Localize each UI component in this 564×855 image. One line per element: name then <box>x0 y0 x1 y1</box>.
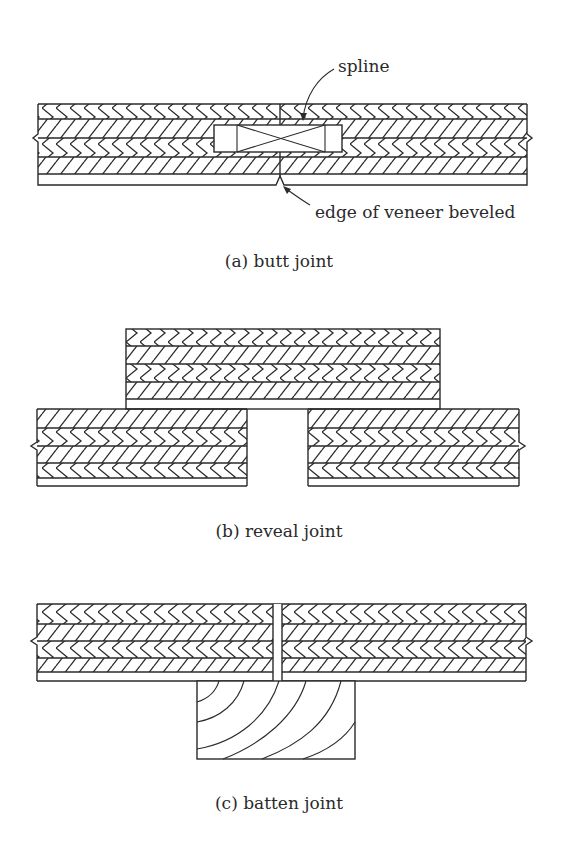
joint-gap <box>273 604 282 681</box>
plywood-panel-left <box>37 604 273 672</box>
plywood-panel-left <box>31 409 247 486</box>
overlay-panel <box>126 329 440 409</box>
joint-diagram: spline edge of veneer beveled (a) butt j… <box>0 0 564 855</box>
plywood-panel-right <box>282 604 526 672</box>
bevel-label: edge of veneer beveled <box>315 202 516 222</box>
panel-b-reveal-joint: (b) reveal joint <box>31 329 525 541</box>
spline <box>214 125 342 152</box>
panel-c-batten-joint: (c) batten joint <box>31 604 532 813</box>
arrowhead-icon <box>283 186 291 194</box>
bevel-leader <box>283 186 310 205</box>
caption-a: (a) butt joint <box>225 251 334 271</box>
panel-a-butt-joint: spline edge of veneer beveled (a) butt j… <box>33 56 532 271</box>
batten <box>197 681 355 759</box>
caption-c: (c) batten joint <box>215 793 343 813</box>
spline-label: spline <box>338 56 390 76</box>
plywood-panel-right <box>308 409 525 486</box>
caption-b: (b) reveal joint <box>215 521 342 541</box>
